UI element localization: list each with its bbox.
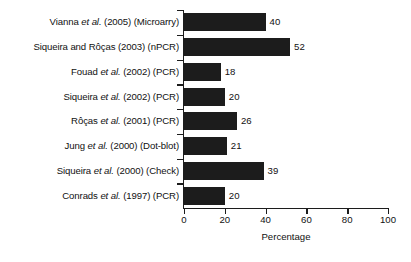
bar-value-label: 39: [264, 166, 279, 176]
category-label: Jung et al. (2000) (Dot-blot): [65, 141, 179, 151]
category-label: Conrads et al. (1997) (PCR): [62, 191, 179, 201]
x-axis-tick-label: 20: [219, 215, 230, 225]
category-label: Fouad et al. (2002) (PCR): [71, 67, 179, 77]
bar-row: 40: [184, 13, 388, 31]
bar: [184, 162, 264, 180]
bar: [184, 88, 225, 106]
category-label: Siqueira et al. (2000) (Check): [57, 166, 179, 176]
x-axis-tick-label: 0: [181, 215, 186, 225]
bar: [184, 38, 290, 56]
category-label: Vianna et al. (2005) (Microarry): [50, 17, 179, 27]
bar-row: 18: [184, 63, 388, 81]
bar-value-label: 18: [221, 67, 236, 77]
category-label: Siqueira et al. (2002) (PCR): [63, 92, 179, 102]
bar-row: 39: [184, 162, 388, 180]
bar-row: 20: [184, 187, 388, 205]
bar-row: 21: [184, 137, 388, 155]
bar: [184, 13, 266, 31]
y-axis-tick: [177, 84, 183, 85]
y-axis-tick: [177, 109, 183, 110]
x-axis-tick-label: 40: [260, 215, 271, 225]
category-label: Siqueira and Rôças (2003) (nPCR): [33, 42, 179, 52]
bar-value-label: 20: [225, 191, 240, 201]
x-axis-line: [183, 208, 389, 209]
y-axis-tick: [177, 183, 183, 184]
bar-row: 52: [184, 38, 388, 56]
bar-row: 20: [184, 88, 388, 106]
bar: [184, 137, 227, 155]
y-axis-tick: [177, 60, 183, 61]
bar: [184, 112, 237, 130]
x-axis-tick-label: 80: [342, 215, 353, 225]
bar-row: 26: [184, 112, 388, 130]
x-axis-tick-label: 60: [301, 215, 312, 225]
bar: [184, 187, 225, 205]
bar: [184, 63, 221, 81]
y-axis-tick: [177, 35, 183, 36]
y-axis-tick: [177, 10, 183, 11]
plot-area: 4052182026213920: [184, 10, 388, 208]
bar-value-label: 52: [290, 42, 305, 52]
bar-value-label: 20: [225, 92, 240, 102]
bar-chart: Vianna et al. (2005) (Microarry)Siqueira…: [0, 0, 411, 262]
bar-value-label: 26: [237, 117, 252, 127]
x-axis-title: Percentage: [184, 232, 388, 242]
y-axis-tick: [177, 159, 183, 160]
x-axis-tick-label: 100: [380, 215, 396, 225]
category-label: Rôças et al. (2001) (PCR): [71, 116, 179, 126]
bar-value-label: 21: [227, 141, 242, 151]
bar-value-label: 40: [266, 18, 281, 28]
category-labels: Vianna et al. (2005) (Microarry)Siqueira…: [0, 0, 179, 262]
y-axis-line: [183, 10, 184, 209]
y-axis-tick: [177, 134, 183, 135]
